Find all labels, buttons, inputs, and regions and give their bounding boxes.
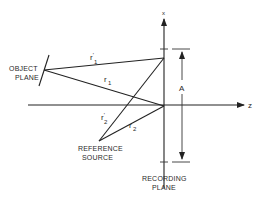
svg-text:2: 2 — [133, 126, 137, 132]
ray-label-r2-prime: r' 2 — [101, 112, 108, 125]
svg-text:r: r — [104, 75, 107, 84]
svg-text:1: 1 — [108, 80, 112, 86]
x-axis-label: x — [162, 10, 165, 16]
holography-diagram: z x A OBJECT PLANE r' 1 r 1 r' 2 r 2 REF… — [0, 0, 262, 201]
recording-plane-label-1: RECORDING — [142, 175, 187, 182]
z-axis-label: z — [248, 101, 252, 110]
ray-label-r1: r 1 — [104, 75, 112, 86]
svg-text:1: 1 — [94, 59, 98, 65]
object-plane-label-1: OBJECT — [9, 65, 38, 72]
svg-text:r: r — [129, 121, 132, 130]
aperture-label: A — [179, 84, 185, 93]
ray-r1-prime — [44, 58, 164, 70]
ray-label-r1-prime: r' 1 — [90, 52, 98, 65]
object-plane-label-2: PLANE — [15, 74, 39, 81]
svg-text:2: 2 — [104, 119, 108, 125]
recording-plane-label-2: PLANE — [152, 184, 176, 191]
reference-source-label-1: REFERENCE — [78, 145, 123, 152]
reference-source-label-2: SOURCE — [82, 154, 113, 161]
